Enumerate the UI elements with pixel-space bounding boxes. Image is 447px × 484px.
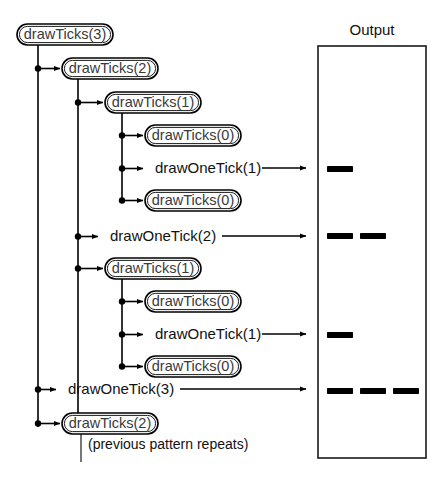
- output-tick-mark: [327, 332, 353, 338]
- diagram-extras: (previous pattern repeats): [88, 436, 248, 452]
- diagram-canvas: drawTicks(3)drawTicks(2)drawTicks(1)draw…: [0, 0, 447, 484]
- output-tick-mark: [327, 388, 353, 394]
- call-node-label: drawTicks(0): [152, 127, 234, 143]
- output-tick-mark: [360, 233, 386, 239]
- call-node-label: drawTicks(1): [112, 260, 194, 276]
- emit-node-label: drawOneTick(2): [110, 227, 216, 244]
- emit-node-label: drawOneTick(1): [155, 159, 261, 176]
- recursion-trace-diagram: drawTicks(3)drawTicks(2)drawTicks(1)draw…: [0, 0, 447, 484]
- call-node-label: drawTicks(0): [152, 293, 234, 309]
- call-connectors: [35, 65, 143, 426]
- output-tick-mark: [327, 166, 353, 172]
- call-nodes: drawTicks(3)drawTicks(2)drawTicks(1)draw…: [17, 24, 261, 434]
- output-tick-mark: [393, 388, 419, 394]
- call-node-label: drawTicks(1): [112, 94, 194, 110]
- repeat-note-label: (previous pattern repeats): [88, 436, 248, 452]
- call-node-label: drawTicks(0): [152, 192, 234, 208]
- output-panel-frame: [318, 46, 426, 458]
- call-node-label: drawTicks(2): [69, 415, 151, 431]
- call-node-label: drawTicks(2): [69, 60, 151, 76]
- call-node-label: drawTicks(0): [152, 358, 234, 374]
- output-tick-mark: [360, 388, 386, 394]
- output-panel: Output: [318, 21, 426, 458]
- output-tick-mark: [327, 233, 353, 239]
- emit-node-label: drawOneTick(3): [68, 380, 174, 397]
- output-panel-title: Output: [349, 21, 395, 38]
- call-node-label: drawTicks(3): [24, 26, 106, 42]
- emit-node-label: drawOneTick(1): [155, 325, 261, 342]
